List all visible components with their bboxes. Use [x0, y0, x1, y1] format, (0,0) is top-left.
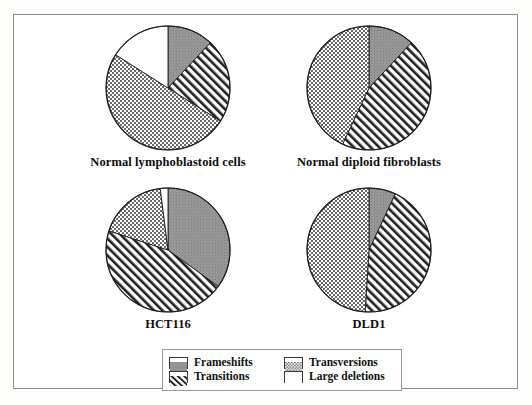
legend-swatch-fill	[285, 376, 302, 386]
pie-chart-dld1: DLD1	[259, 186, 479, 332]
pie-graphic	[305, 186, 433, 314]
legend: Frameshifts Transversions Transitions La…	[162, 349, 402, 391]
legend-swatch-frameshifts-icon	[169, 357, 188, 369]
pie-chart-normal-lymphoblastoid-cells: Normal lymphoblastoid cells	[58, 24, 278, 170]
legend-label-large-deletions: Large deletions	[309, 371, 385, 383]
figure-frame: Normal lymphoblastoid cells Normal diplo…	[13, 14, 518, 389]
pie-svg-0	[104, 24, 232, 152]
legend-label-transitions: Transitions	[194, 371, 249, 383]
legend-item-large-deletions: Large deletions	[284, 371, 395, 383]
legend-swatch-transitions-icon	[169, 371, 188, 383]
pie-caption-1: Normal diploid fibroblasts	[259, 155, 479, 170]
legend-swatch-fill	[170, 376, 187, 386]
pie-caption-0: Normal lymphoblastoid cells	[58, 155, 278, 170]
pie-svg-2	[104, 186, 232, 314]
legend-label-transversions: Transversions	[309, 357, 378, 369]
legend-item-transversions: Transversions	[284, 357, 395, 369]
legend-swatch-transversions-icon	[284, 357, 303, 369]
figure-root: Normal lymphoblastoid cells Normal diplo…	[0, 0, 532, 405]
legend-item-transitions: Transitions	[169, 371, 280, 383]
pie-chart-hct116: HCT116	[58, 186, 278, 332]
pie-caption-3: DLD1	[259, 317, 479, 332]
legend-item-frameshifts: Frameshifts	[169, 357, 280, 369]
pie-svg-1	[305, 24, 433, 152]
pie-graphic	[305, 24, 433, 152]
pie-graphic	[104, 24, 232, 152]
pie-caption-2: HCT116	[58, 317, 278, 332]
legend-swatch-large-deletions-icon	[284, 371, 303, 383]
pie-slice-transversions	[307, 188, 369, 312]
pie-graphic	[104, 186, 232, 314]
pie-svg-3	[305, 186, 433, 314]
legend-label-frameshifts: Frameshifts	[194, 357, 253, 369]
pie-chart-normal-diploid-fibroblasts: Normal diploid fibroblasts	[259, 24, 479, 170]
